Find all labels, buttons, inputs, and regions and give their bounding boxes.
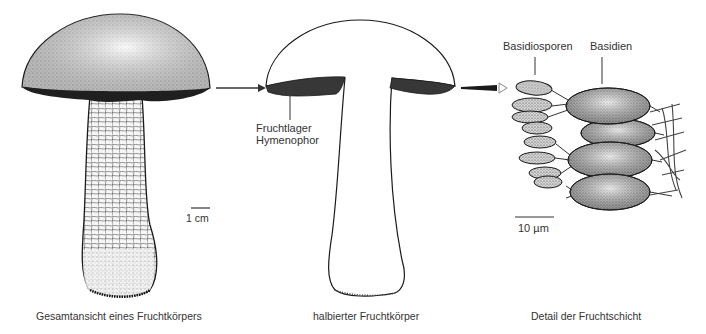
caption-halved-fruiting-body: halbierter Fruchtkörper (313, 310, 419, 322)
arrow-icon (216, 84, 266, 92)
halved-mushroom-illustration (266, 20, 455, 296)
label-hymenophor: Hymenophor (256, 134, 319, 146)
hymenium-detail-illustration (512, 57, 686, 217)
caption-hymenium-detail: Detail der Fruchtschicht (531, 310, 641, 322)
scale-bar-label-10um: 10 µm (518, 222, 549, 234)
caption-whole-fruiting-body: Gesamtansicht eines Fruchtkörpers (36, 310, 202, 322)
whole-mushroom-illustration (22, 14, 210, 297)
label-fruchtlager: Fruchtlager (256, 122, 312, 134)
label-basidiosporen: Basidiosporen (503, 40, 573, 52)
scale-bar-label-1cm: 1 cm (186, 212, 209, 224)
arrow-icon (461, 83, 507, 93)
label-basidien: Basidien (590, 40, 632, 52)
